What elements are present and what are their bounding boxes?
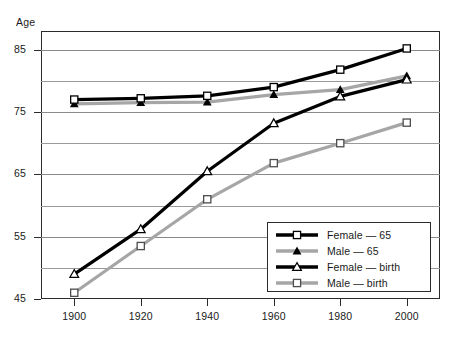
y-tick-mark: [34, 237, 41, 238]
data-point-marker: [293, 231, 300, 238]
legend-item[interactable]: Female — birth: [268, 259, 430, 275]
x-tick-label: 1940: [183, 310, 231, 322]
y-tick-mark: [34, 299, 41, 300]
x-tick-label: 1960: [250, 310, 298, 322]
legend-item[interactable]: Male — birth: [268, 275, 430, 291]
x-tick-mark: [207, 299, 208, 306]
legend-swatch-icon: [274, 260, 320, 274]
life-expectancy-chart: Age 4555657585 190019201940196019802000 …: [0, 0, 470, 337]
x-tick-mark: [274, 299, 275, 306]
y-tick-mark: [34, 174, 41, 175]
legend-item-label: Female — 65: [327, 229, 391, 241]
x-tick-mark: [141, 299, 142, 306]
y-axis-title: Age: [16, 16, 35, 28]
legend-item[interactable]: Female — 65: [268, 227, 430, 243]
y-tick-label: 85: [0, 43, 26, 55]
legend-item-label: Male — birth: [327, 277, 388, 289]
legend-item-label: Female — birth: [327, 261, 400, 273]
legend-item[interactable]: Male — 65: [268, 243, 430, 259]
gridline: [41, 81, 440, 82]
y-tick-label: 75: [0, 105, 26, 117]
chart-legend: Female — 65Male — 65Female — birthMale —…: [267, 222, 431, 292]
legend-swatch-icon: [274, 244, 320, 258]
y-tick-label: 55: [0, 230, 26, 242]
y-tick-label: 45: [0, 292, 26, 304]
x-tick-mark: [340, 299, 341, 306]
gridline: [41, 206, 440, 207]
y-tick-label: 65: [0, 167, 26, 179]
legend-swatch-icon: [274, 228, 320, 242]
legend-swatch-icon: [274, 276, 320, 290]
x-tick-mark: [74, 299, 75, 306]
gridline: [41, 50, 440, 51]
legend-item-label: Male — 65: [327, 245, 379, 257]
x-tick-label: 2000: [383, 310, 431, 322]
data-point-marker: [293, 279, 300, 286]
y-tick-mark: [34, 50, 41, 51]
x-tick-mark: [407, 299, 408, 306]
gridline: [41, 112, 440, 113]
gridline: [41, 174, 440, 175]
x-tick-label: 1980: [316, 310, 364, 322]
x-tick-label: 1900: [50, 310, 98, 322]
x-tick-label: 1920: [117, 310, 165, 322]
gridline: [41, 143, 440, 144]
y-tick-mark: [34, 112, 41, 113]
